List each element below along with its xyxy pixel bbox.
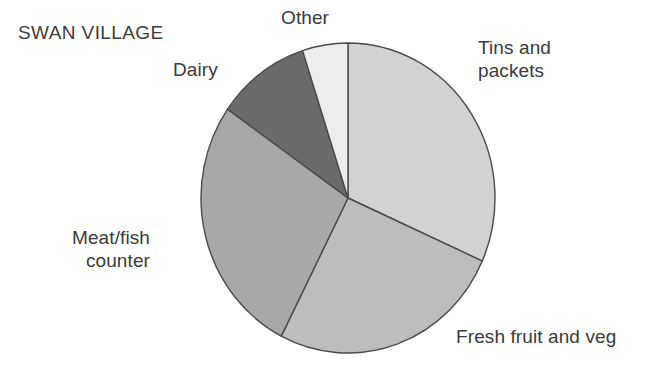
pie-slice-group [201,43,495,353]
slice-label-fresh-fruit-and-veg: Fresh fruit and veg [456,325,616,348]
slice-label-other: Other [281,6,329,29]
slice-label-tins-and-packets: Tins and packets [478,36,551,82]
chart-title: SWAN VILLAGE [18,21,164,44]
pie-chart-figure: SWAN VILLAGE Other Tins and packets Fres… [0,0,655,384]
slice-label-dairy: Dairy [173,58,218,81]
slice-label-meat-fish-counter: Meat/fish counter [72,226,150,272]
